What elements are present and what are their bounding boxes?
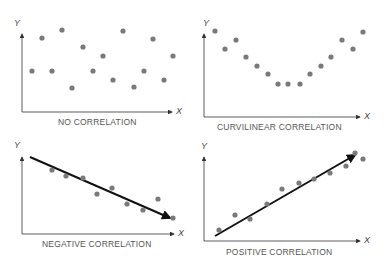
data-point (296, 180, 301, 185)
x-axis-label: X (364, 111, 370, 121)
data-point (350, 46, 355, 51)
data-point (170, 53, 175, 58)
data-point (170, 215, 175, 220)
x-axis-label: X (178, 228, 184, 238)
data-point (140, 207, 145, 212)
y-axis-label: Y (203, 18, 209, 28)
data-point (150, 36, 155, 41)
panel-label-positive-correlation: POSITIVE CORRELATION (226, 247, 332, 257)
data-point (100, 53, 105, 58)
data-point (247, 216, 252, 221)
data-point (155, 196, 160, 201)
data-point (110, 77, 115, 82)
panel-label-curvilinear-correlation: CURVILINEAR CORRELATION (217, 122, 342, 132)
data-point (360, 29, 365, 34)
data-point (275, 81, 280, 86)
correlation-diagram (0, 0, 386, 270)
data-point (59, 27, 64, 32)
data-point (90, 68, 95, 73)
data-point (254, 63, 259, 68)
data-point (216, 227, 221, 232)
data-point (311, 176, 316, 181)
data-point (29, 68, 34, 73)
data-point (307, 71, 312, 76)
data-point (243, 54, 248, 59)
data-point (49, 167, 54, 172)
data-point (328, 54, 333, 59)
data-point (109, 185, 114, 190)
data-point (80, 175, 85, 180)
data-point (39, 35, 44, 40)
data-point (161, 77, 166, 82)
data-point (318, 63, 323, 68)
data-point (80, 44, 85, 49)
data-point (264, 201, 269, 206)
data-point (212, 28, 217, 33)
trend-line (30, 157, 170, 218)
panel-label-negative-correlation: NEGATIVE CORRELATION (42, 239, 151, 249)
data-point (222, 46, 227, 51)
data-point (285, 81, 290, 86)
data-point (352, 150, 357, 155)
y-axis-label: Y (14, 18, 20, 28)
data-point (120, 28, 125, 33)
data-point (327, 170, 332, 175)
trend-lines (30, 155, 355, 236)
data-point (343, 163, 348, 168)
data-point (265, 71, 270, 76)
x-axis-label: X (176, 106, 182, 116)
data-point (94, 191, 99, 196)
data-point (360, 156, 365, 161)
data-point (297, 81, 302, 86)
data-point (232, 212, 237, 217)
data-point (233, 37, 238, 42)
y-axis-label: Y (201, 141, 207, 151)
data-point (63, 173, 68, 178)
x-axis-label: X (364, 235, 370, 245)
data-point (124, 201, 129, 206)
data-point (279, 186, 284, 191)
trend-line (215, 155, 355, 236)
y-axis-label: Y (14, 140, 20, 150)
data-point (141, 68, 146, 73)
data-point (49, 68, 54, 73)
data-point (131, 84, 136, 89)
axes (22, 34, 360, 241)
panel-label-no-correlation: NO CORRELATION (58, 117, 137, 127)
data-point (69, 85, 74, 90)
data-point (339, 37, 344, 42)
